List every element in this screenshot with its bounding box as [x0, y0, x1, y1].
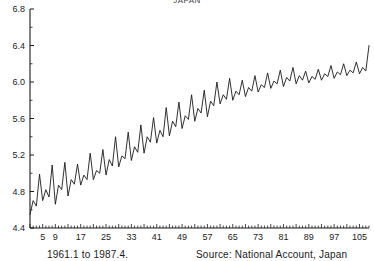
x-tick-label: 25 [101, 232, 111, 242]
x-tick-label: 41 [152, 232, 162, 242]
y-tick-label: 6.8 [12, 4, 25, 14]
chart-figure: JAPAN 4.44.85.25.66.06.46.85917253341495… [0, 0, 374, 261]
x-tick-label: 33 [126, 232, 136, 242]
x-tick-label: 105 [352, 232, 367, 242]
y-tick-label: 4.4 [12, 223, 25, 233]
x-tick-label: 65 [228, 232, 238, 242]
x-tick-label: 73 [253, 232, 263, 242]
x-tick-label: 5 [40, 232, 45, 242]
data-line-japan [30, 46, 369, 215]
period-note: 1961.1 to 1987.4. [47, 249, 128, 260]
y-tick-label: 5.2 [12, 150, 25, 160]
x-tick-label: 9 [53, 232, 58, 242]
y-tick-label: 6.0 [12, 77, 25, 87]
source-note: Source: National Account, Japan [196, 249, 347, 260]
y-tick-label: 4.8 [12, 187, 25, 197]
chart-plot-area: 4.44.85.25.66.06.46.85917253341495765738… [0, 0, 374, 261]
x-tick-label: 89 [304, 232, 314, 242]
x-tick-label: 49 [177, 232, 187, 242]
x-tick-label: 57 [202, 232, 212, 242]
x-tick-label: 97 [329, 232, 339, 242]
x-tick-label: 81 [278, 232, 288, 242]
x-tick-label: 17 [76, 232, 86, 242]
y-tick-label: 6.4 [12, 41, 25, 51]
y-tick-label: 5.6 [12, 114, 25, 124]
